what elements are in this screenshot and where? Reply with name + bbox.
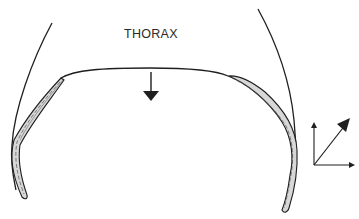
thorax-label: THORAX [124,27,178,41]
contraction-arrow [143,72,159,101]
diaphragm-diagram [0,0,359,219]
force-vector-diagram [314,118,352,165]
resultant-vector [314,124,346,165]
diaphragm-dome [61,68,228,78]
resultant-arrowhead [337,118,350,132]
diaphragm-muscle-left [12,78,64,199]
diaphragm-muscle-right [228,76,297,212]
